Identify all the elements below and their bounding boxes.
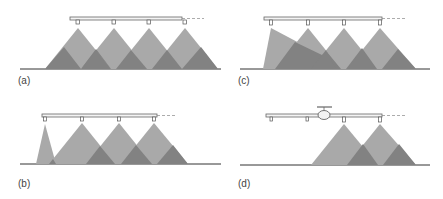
- spray-diagram: .lt{fill:#a9a9a9;} .dk{fill:#828282;} .b…: [0, 0, 443, 199]
- panel-label-b: (b): [18, 178, 30, 189]
- nozzle: [44, 117, 47, 121]
- panel-label-c: (c): [238, 75, 250, 86]
- nozzle: [343, 20, 346, 25]
- nozzle: [76, 20, 80, 24]
- nozzle: [343, 117, 346, 122]
- boom: [42, 114, 157, 117]
- nozzle: [379, 117, 382, 122]
- nozzle: [112, 20, 116, 24]
- nozzle: [81, 117, 84, 121]
- boom: [264, 17, 382, 20]
- boom: [70, 17, 182, 20]
- panel-c: [240, 17, 430, 69]
- nozzle: [118, 117, 121, 121]
- panel-d: [240, 107, 430, 165]
- panel-a: [20, 17, 221, 69]
- nozzle: [306, 117, 309, 121]
- nozzle: [270, 117, 273, 121]
- nozzle: [270, 20, 273, 25]
- nozzle: [147, 20, 151, 24]
- nozzle: [183, 20, 187, 24]
- panel-label-d: (d): [238, 178, 250, 189]
- nozzle: [307, 20, 310, 25]
- panel-b: [20, 114, 221, 164]
- nozzle: [379, 20, 382, 25]
- fuselage-icon: [318, 111, 330, 120]
- nozzle: [153, 117, 156, 121]
- panel-label-a: (a): [18, 75, 30, 86]
